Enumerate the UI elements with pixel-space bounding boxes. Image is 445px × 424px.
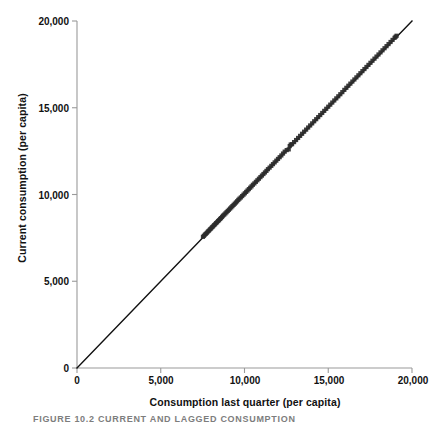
x-tick-label-15000: 15,000	[284, 375, 374, 386]
axis-lines	[77, 21, 412, 368]
y-tick-label-5000: 5,000	[0, 276, 69, 287]
axis-ticks	[72, 21, 412, 373]
x-tick-label-10000: 10,000	[200, 375, 290, 386]
x-tick-label-20000: 20,000	[368, 375, 445, 386]
scatter-plot	[0, 0, 445, 424]
x-tick-label-0: 0	[32, 375, 122, 386]
y-tick-label-10000: 10,000	[0, 190, 69, 201]
y-axis-title: Current consumption (per capita)	[16, 0, 32, 368]
y-tick-label-0: 0	[0, 363, 69, 374]
y-tick-label-15000: 15,000	[0, 103, 69, 114]
data-point-group	[201, 34, 399, 239]
y-tick-label-20000: 20,000	[0, 16, 69, 27]
x-tick-label-5000: 5,000	[116, 375, 206, 386]
x-axis-title: Consumption last quarter (per capita)	[77, 396, 413, 408]
figure-container: Current consumption (per capita) Consump…	[0, 0, 445, 424]
reference-line-45deg	[77, 21, 412, 368]
figure-caption: FIGURE 10.2 CURRENT AND LAGGED CONSUMPTI…	[33, 414, 333, 424]
